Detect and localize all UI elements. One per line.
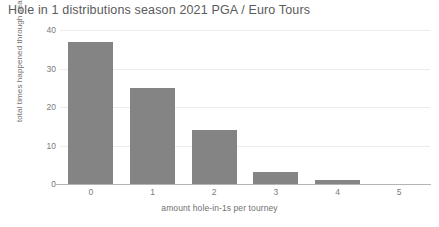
bar xyxy=(253,172,298,184)
y-axis-tick-label: 10 xyxy=(10,142,56,151)
x-axis-title: amount hole-in-1s per tourney xyxy=(0,203,439,213)
x-axis-tick-label: 4 xyxy=(318,187,358,197)
x-axis-tick-label: 2 xyxy=(194,187,234,197)
x-axis-tick-label: 1 xyxy=(133,187,173,197)
gridline xyxy=(60,69,430,70)
y-axis-title: total times happened through season xyxy=(15,0,24,130)
gridline xyxy=(60,30,430,31)
x-axis-tick-label: 0 xyxy=(71,187,111,197)
x-axis-line xyxy=(56,184,431,185)
x-axis-tick-label: 5 xyxy=(379,187,419,197)
x-axis-tick-label: 3 xyxy=(256,187,296,197)
y-axis-tick-label: 0 xyxy=(10,180,56,189)
plot-area xyxy=(60,30,430,184)
gridline xyxy=(60,146,430,147)
y-axis-tick-labels: 010203040 xyxy=(0,0,56,227)
bar xyxy=(68,42,113,184)
bar xyxy=(130,88,175,184)
gridline xyxy=(60,107,430,108)
bar-chart: Hole in 1 distributions season 2021 PGA … xyxy=(0,0,439,227)
bar xyxy=(192,130,237,184)
